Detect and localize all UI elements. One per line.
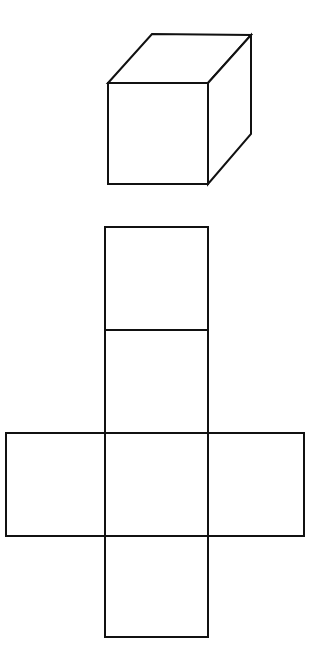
cube-solid <box>108 34 251 184</box>
figure-root <box>0 0 323 649</box>
figure-canvas <box>0 0 323 649</box>
cube-front-face <box>108 83 208 184</box>
cube-net <box>6 227 304 637</box>
